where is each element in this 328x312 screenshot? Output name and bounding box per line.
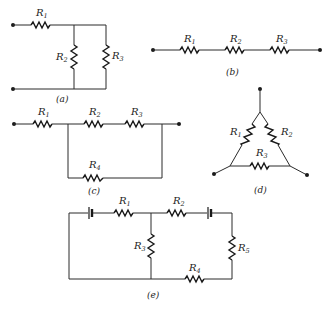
label-r2: R2 (55, 51, 68, 64)
resistor-r2 (265, 124, 279, 145)
diagram-a: R1 R2 R3 (a) (11, 7, 124, 104)
resistor-r1 (114, 210, 133, 216)
circuit-diagrams: R1 R2 R3 (a) R1 R2 R3 (b) R1 (0, 0, 328, 312)
label-r2: R2 (88, 106, 101, 119)
diagram-d: R1 R2 R3 (d) (212, 87, 309, 195)
resistor-r1 (180, 47, 199, 53)
resistor-r1 (241, 124, 255, 145)
label-r2: R2 (172, 195, 185, 208)
label-r3: R3 (111, 50, 124, 63)
caption-a: (a) (56, 94, 69, 104)
resistor-r4 (185, 276, 204, 282)
resistor-r3 (103, 45, 109, 69)
label-r3: R3 (255, 147, 268, 160)
resistor-r4 (83, 175, 103, 181)
label-r3: R3 (275, 33, 288, 46)
battery-2-icon (208, 207, 211, 219)
label-r1: R1 (37, 106, 50, 119)
resistor-r2 (167, 210, 186, 216)
resistor-r3 (148, 234, 154, 258)
resistor-r1 (31, 22, 50, 28)
resistor-r5 (229, 236, 235, 260)
diagram-c: R1 R2 R3 R4 (c) (12, 106, 181, 196)
battery-1-icon (89, 207, 92, 219)
label-r3: R3 (130, 106, 143, 119)
resistor-r2 (71, 45, 77, 69)
caption-b: (b) (226, 67, 239, 77)
label-r2: R2 (280, 126, 293, 139)
resistor-r1 (33, 121, 52, 127)
label-r3: R3 (133, 240, 146, 253)
terminal-dot (305, 173, 309, 177)
resistor-r3 (270, 47, 289, 53)
resistor-r3 (250, 163, 269, 169)
resistor-r3 (125, 121, 144, 127)
terminal-dot (177, 122, 181, 126)
diagram-b: R1 R2 R3 (b) (151, 33, 322, 77)
label-r1: R1 (35, 7, 48, 20)
label-r2: R2 (229, 33, 242, 46)
caption-e: (e) (147, 290, 160, 300)
resistor-r2 (225, 47, 244, 53)
label-r1: R1 (229, 126, 242, 139)
resistor-r2 (84, 121, 103, 127)
label-r4: R4 (88, 159, 101, 172)
diagram-e: R1 R2 R3 R4 R5 (e) (69, 195, 250, 300)
terminal-dot (212, 172, 216, 176)
terminal-dot (318, 48, 322, 52)
label-r5: R5 (237, 242, 250, 255)
caption-d: (d) (254, 185, 267, 195)
label-r4: R4 (188, 262, 201, 275)
label-r1: R1 (183, 33, 196, 46)
label-r1: R1 (118, 195, 131, 208)
caption-c: (c) (88, 186, 101, 196)
